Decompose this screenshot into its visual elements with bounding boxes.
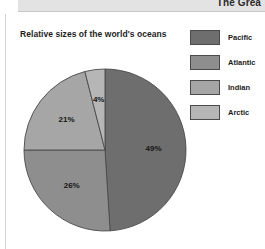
legend-item: Atlantic	[190, 50, 265, 74]
legend-label: Pacific	[228, 33, 252, 42]
legend-label: Atlantic	[228, 58, 256, 67]
pie-chart-svg: 49%26%21%4%	[22, 67, 188, 233]
legend-label: Indian	[228, 83, 250, 92]
legend-swatch	[190, 30, 220, 45]
legend-item: Arctic	[190, 100, 265, 124]
chart-title: Relative sizes of the world's oceans	[20, 29, 166, 39]
pie-slice-atlantic	[24, 150, 110, 231]
pie-slice-label: 21%	[59, 115, 75, 124]
page-header-band: The Grea	[18, 0, 265, 12]
legend-label: Arctic	[228, 108, 249, 117]
legend-swatch	[190, 105, 220, 120]
legend-swatch	[190, 80, 220, 95]
pie-slices	[24, 69, 186, 231]
pie-slice-label: 26%	[64, 181, 80, 190]
pie-chart: 49%26%21%4%	[22, 67, 188, 233]
legend-item: Pacific	[190, 25, 265, 49]
page-header-title: The Grea	[217, 0, 261, 8]
pie-slice-label: 4%	[93, 95, 105, 104]
pie-slice-label: 49%	[146, 144, 162, 153]
chart-legend: PacificAtlanticIndianArctic	[190, 25, 265, 125]
legend-item: Indian	[190, 75, 265, 99]
legend-swatch	[190, 55, 220, 70]
